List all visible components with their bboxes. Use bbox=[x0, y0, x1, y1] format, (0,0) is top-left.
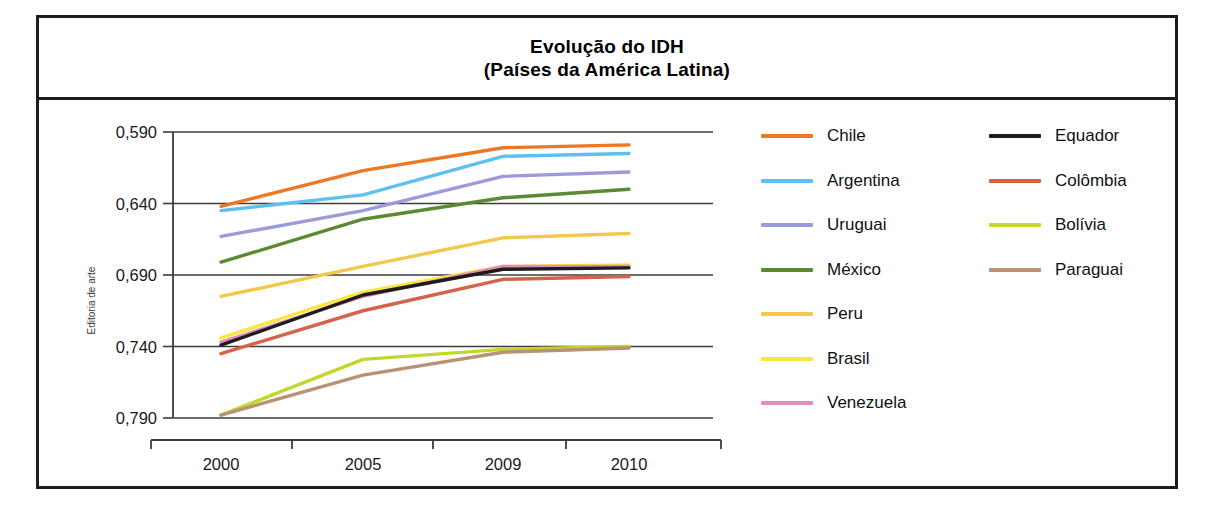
legend-item-label: Paraguai bbox=[1055, 260, 1123, 280]
legend-swatch-icon bbox=[761, 179, 813, 183]
legend-swatch-icon bbox=[761, 401, 813, 405]
legend-item-label: Brasil bbox=[827, 349, 870, 369]
chart-body: Editoria de arte 0,7900,7400,6900,6400,5… bbox=[39, 100, 1175, 489]
legend-item-venezuela[interactable]: Venezuela bbox=[761, 381, 961, 426]
legend-swatch-icon bbox=[761, 357, 813, 361]
chart-legend: ChileArgentinaUruguaiMéxicoPeruBrasilVen… bbox=[761, 114, 1181, 464]
y-tick-labels-group: 0,7900,7400,6900,6400,590 bbox=[116, 123, 173, 427]
y-tick-label: 0,590 bbox=[116, 123, 157, 141]
chart-title-band: Evolução do IDH (Países da América Latin… bbox=[39, 18, 1175, 100]
chart-frame: Evolução do IDH (Países da América Latin… bbox=[36, 15, 1178, 489]
legend-item-bolvia[interactable]: Bolívia bbox=[989, 203, 1189, 248]
legend-item-label: Peru bbox=[827, 304, 863, 324]
line-chart-svg: 0,7900,7400,6900,6400,590 20002005200920… bbox=[61, 118, 743, 478]
series-line-paraguai bbox=[221, 348, 629, 415]
legend-item-label: Uruguai bbox=[827, 215, 887, 235]
legend-item-brasil[interactable]: Brasil bbox=[761, 337, 961, 382]
axis-lines-group bbox=[151, 132, 721, 449]
series-line-colmbia bbox=[221, 276, 629, 353]
legend-column-right: EquadorColômbiaBolíviaParaguai bbox=[989, 114, 1189, 292]
legend-item-label: Bolívia bbox=[1055, 215, 1106, 235]
legend-item-mxico[interactable]: México bbox=[761, 248, 961, 293]
chart-title-line-1: Evolução do IDH bbox=[530, 35, 684, 58]
legend-swatch-icon bbox=[761, 134, 813, 138]
series-line-bolvia bbox=[221, 347, 629, 416]
legend-item-label: Argentina bbox=[827, 171, 900, 191]
series-line-brasil bbox=[221, 265, 629, 338]
x-tick-labels-group: 2000200520092010 bbox=[203, 455, 648, 473]
data-series-group bbox=[221, 145, 629, 415]
legend-column-left: ChileArgentinaUruguaiMéxicoPeruBrasilVen… bbox=[761, 114, 961, 426]
legend-swatch-icon bbox=[989, 223, 1041, 227]
legend-item-chile[interactable]: Chile bbox=[761, 114, 961, 159]
y-tick-label: 0,790 bbox=[116, 409, 157, 427]
legend-item-uruguai[interactable]: Uruguai bbox=[761, 203, 961, 248]
chart-page: Evolução do IDH (Países da América Latin… bbox=[0, 0, 1206, 514]
x-tick-label: 2009 bbox=[485, 455, 522, 473]
legend-item-label: Colômbia bbox=[1055, 171, 1127, 191]
legend-swatch-icon bbox=[989, 134, 1041, 138]
legend-swatch-icon bbox=[761, 312, 813, 316]
chart-title-line-2: (Países da América Latina) bbox=[484, 58, 730, 81]
legend-swatch-icon bbox=[761, 268, 813, 272]
legend-item-equador[interactable]: Equador bbox=[989, 114, 1189, 159]
x-tick-label: 2005 bbox=[345, 455, 382, 473]
legend-swatch-icon bbox=[761, 223, 813, 227]
x-tick-marks-group bbox=[292, 440, 566, 449]
y-tick-label: 0,640 bbox=[116, 195, 157, 213]
legend-swatch-icon bbox=[989, 268, 1041, 272]
x-tick-label: 2010 bbox=[611, 455, 648, 473]
legend-item-label: Equador bbox=[1055, 126, 1119, 146]
plot-area: 0,7900,7400,6900,6400,590 20002005200920… bbox=[61, 118, 743, 478]
legend-item-peru[interactable]: Peru bbox=[761, 292, 961, 337]
y-tick-label: 0,690 bbox=[116, 266, 157, 284]
legend-item-label: Chile bbox=[827, 126, 866, 146]
legend-swatch-icon bbox=[989, 179, 1041, 183]
legend-item-label: México bbox=[827, 260, 881, 280]
y-tick-label: 0,740 bbox=[116, 338, 157, 356]
gridlines-group bbox=[173, 132, 713, 418]
legend-item-argentina[interactable]: Argentina bbox=[761, 159, 961, 204]
legend-item-colmbia[interactable]: Colômbia bbox=[989, 159, 1189, 204]
legend-item-paraguai[interactable]: Paraguai bbox=[989, 248, 1189, 293]
x-tick-label: 2000 bbox=[203, 455, 240, 473]
legend-item-label: Venezuela bbox=[827, 393, 906, 413]
